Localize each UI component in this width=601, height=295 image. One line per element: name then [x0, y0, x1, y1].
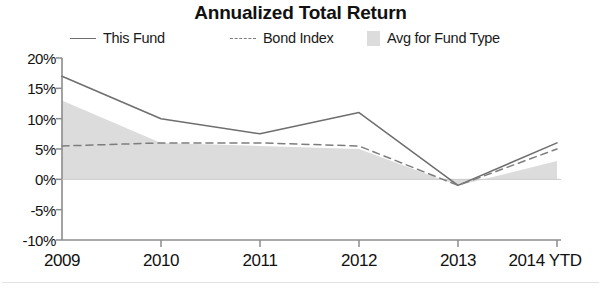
x-axis-tick-label: 2014 YTD [508, 251, 581, 271]
y-axis-tick-label: 5% [4, 141, 56, 158]
plot-area: 20%15%10%5%0%-5%-10% 2009201020112012201… [0, 0, 601, 295]
x-axis-tick-label: 2010 [143, 251, 179, 271]
y-axis-tick-label: 15% [4, 80, 56, 97]
x-axis-tick-label: 2013 [440, 251, 476, 271]
x-axis-tick-label: 2009 [44, 251, 80, 271]
x-axis-tick-label: 2012 [341, 251, 377, 271]
y-axis-tick-label: -10% [4, 232, 56, 249]
footer-divider [2, 282, 599, 283]
chart-page: Annualized Total Return This Fund Bond I… [0, 0, 601, 295]
y-axis-tick-label: 10% [4, 110, 56, 127]
x-axis-tick-label: 2011 [243, 251, 278, 271]
y-axis-tick-label: 0% [4, 171, 56, 188]
y-axis-tick-label: -5% [4, 201, 56, 218]
y-axis-tick-label: 20% [4, 50, 56, 67]
